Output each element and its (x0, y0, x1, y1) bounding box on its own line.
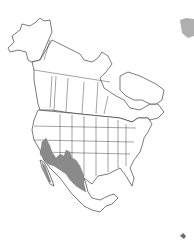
greenland-fragment (180, 18, 194, 38)
range-map (0, 0, 194, 243)
labrador (120, 72, 164, 104)
caribbean-speck (180, 233, 186, 239)
